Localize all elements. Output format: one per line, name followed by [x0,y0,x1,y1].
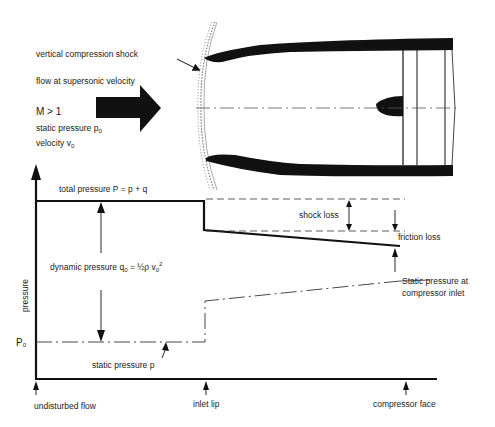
dynamic-pressure-label: dynamic pressure q0 = ½ρ v02 [50,261,163,273]
shock-label: vertical compression shock [36,49,139,59]
static-pressure-line [36,281,400,342]
arrow-down-icon [392,224,398,231]
spinner [376,96,403,116]
arrow-down-icon [346,224,352,231]
x-label-inlet-lip: inlet lip [193,399,220,409]
arrow-up-icon [33,381,39,390]
mach-label: M > 1 [36,106,62,117]
static-pressure-p-label: static pressure p [92,360,155,370]
arrow-up-icon [97,202,105,213]
total-pressure-line [36,201,400,246]
shock-wave-line [204,22,217,190]
lower-cowl [206,154,453,176]
shock-pointer-arrow [177,59,197,69]
arrow-up-icon [346,200,352,207]
y-axis-label: pressure [20,279,30,312]
arrow-up-icon [203,381,209,390]
upper-cowl [204,38,453,62]
static-at-compressor-label: Static pressure at [402,276,469,286]
arrow-up-icon [403,381,409,390]
shock-loss-label: shock loss [299,210,339,220]
y-axis-arrow-icon [31,164,41,180]
intake-pressure-diagram: vertical compression shock flow at super… [0,0,495,427]
compressor-stage-line [452,50,455,165]
x-label-compressor-face: compressor face [373,399,436,409]
arrow-up-icon [162,342,169,351]
static-at-compressor-label-2: compressor inlet [402,288,465,298]
p0-label: P0 [16,337,27,348]
flow-label: flow at supersonic velocity [36,76,135,86]
pressure-graph: pressure P0 to [16,164,469,411]
flow-arrow-icon [96,85,161,132]
arrow-down-icon [97,330,105,342]
x-label-undisturbed: undisturbed flow [34,401,97,411]
total-pressure-label: total pressure P = p + q [59,184,147,194]
engine-intake: vertical compression shock flow at super… [36,22,460,190]
arrow-up-icon [392,248,398,257]
velocity-label: velocity v0 [36,138,75,149]
static-pressure-label: static pressure p0 [36,123,102,134]
friction-loss-label: friction loss [398,232,441,242]
